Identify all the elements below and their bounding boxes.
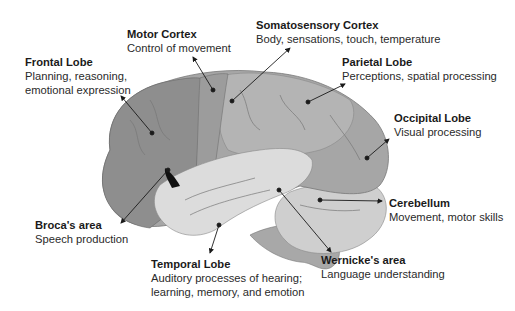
label-desc: Planning, reasoning, xyxy=(25,69,131,83)
label-title: Frontal Lobe xyxy=(25,55,131,69)
label-motor-cortex: Motor Cortex Control of movement xyxy=(127,27,231,55)
brain-diagram: Frontal Lobe Planning, reasoning, emotio… xyxy=(0,0,515,311)
label-desc: Movement, motor skills xyxy=(389,210,503,224)
label-title: Wernicke's area xyxy=(321,253,445,267)
label-desc: Perceptions, spatial processing xyxy=(342,69,497,83)
label-title: Cerebellum xyxy=(389,196,503,210)
label-desc: emotional expression xyxy=(25,83,131,97)
label-wernickes-area: Wernicke's area Language understanding xyxy=(321,253,445,281)
label-occipital-lobe: Occipital Lobe Visual processing xyxy=(394,111,481,139)
cerebellum-region xyxy=(275,182,386,254)
label-desc: Speech production xyxy=(35,232,128,246)
label-title: Occipital Lobe xyxy=(394,111,481,125)
label-title: Temporal Lobe xyxy=(151,257,304,271)
label-cerebellum: Cerebellum Movement, motor skills xyxy=(389,196,503,224)
label-frontal-lobe: Frontal Lobe Planning, reasoning, emotio… xyxy=(25,55,131,97)
label-parietal-lobe: Parietal Lobe Perceptions, spatial proce… xyxy=(342,55,497,83)
label-desc: Body, sensations, touch, temperature xyxy=(256,32,441,46)
label-title: Parietal Lobe xyxy=(342,55,497,69)
label-desc: Language understanding xyxy=(321,267,445,281)
label-temporal-lobe: Temporal Lobe Auditory processes of hear… xyxy=(151,257,304,299)
label-desc: learning, memory, and emotion xyxy=(151,285,304,299)
label-desc: Visual processing xyxy=(394,125,481,139)
parietal-lobe-region xyxy=(218,73,354,157)
label-title: Motor Cortex xyxy=(127,27,231,41)
label-title: Broca's area xyxy=(35,218,128,232)
label-brocas-area: Broca's area Speech production xyxy=(35,218,128,246)
label-somatosensory-cortex: Somatosensory Cortex Body, sensations, t… xyxy=(256,18,441,46)
label-desc: Control of movement xyxy=(127,41,231,55)
label-desc: Auditory processes of hearing; xyxy=(151,271,304,285)
label-title: Somatosensory Cortex xyxy=(256,18,441,32)
